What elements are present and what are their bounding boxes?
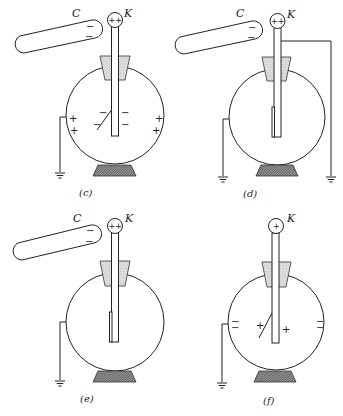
knob-label: K bbox=[286, 8, 296, 21]
charged-rod-c: C − − bbox=[15, 7, 103, 53]
ground-icon bbox=[55, 173, 65, 178]
electroscope-figure: C − − ++ K − − − − + + + + (c) bbox=[0, 0, 343, 416]
electroscope-f: + K + + − − − − bbox=[228, 212, 324, 382]
rod-charge: − bbox=[85, 31, 93, 42]
ground-icon bbox=[217, 383, 227, 388]
caption-d: (d) bbox=[243, 188, 257, 199]
globe-charge: + bbox=[152, 125, 160, 136]
panel-e: C − − ++ K (e) bbox=[13, 212, 164, 404]
panel-f: + K + + − − − − (f) bbox=[217, 212, 324, 406]
charged-rod-d: C − − bbox=[175, 7, 263, 54]
ground-icon bbox=[218, 177, 228, 182]
ground-wire-c bbox=[55, 117, 66, 178]
globe-charge: − bbox=[231, 322, 239, 333]
caption-f: (f) bbox=[263, 395, 275, 406]
globe-charge: + bbox=[69, 113, 77, 124]
base bbox=[256, 165, 298, 176]
knob-charge: ++ bbox=[109, 222, 122, 231]
rod-label: C bbox=[73, 212, 82, 225]
ground-wire-e bbox=[55, 322, 66, 386]
knob-label: K bbox=[124, 212, 134, 225]
ground-icon bbox=[55, 381, 65, 386]
rod-charge: − bbox=[86, 225, 94, 236]
rod-charge: − bbox=[247, 32, 255, 43]
globe-charge: + bbox=[155, 113, 163, 124]
rod-inner-charge: − bbox=[121, 119, 129, 130]
base bbox=[254, 371, 296, 382]
panel-c: C − − ++ K − − − − + + + + (c) bbox=[15, 7, 164, 198]
rod-label: C bbox=[236, 7, 245, 20]
globe-charge: + bbox=[70, 125, 78, 136]
gold-leaf bbox=[272, 107, 275, 137]
base bbox=[93, 165, 136, 176]
ground-icon bbox=[326, 177, 336, 182]
metal-rod bbox=[274, 27, 281, 137]
caption-c: (c) bbox=[79, 187, 93, 198]
electroscope-c: ++ K − − − − + + + + bbox=[66, 7, 164, 176]
caption-e: (e) bbox=[80, 393, 94, 404]
globe-charge: − bbox=[316, 322, 324, 333]
metal-rod bbox=[112, 232, 119, 342]
knob-label: K bbox=[286, 212, 296, 225]
leaf-charge: − bbox=[99, 107, 107, 118]
electroscope-d: ++ K bbox=[229, 8, 325, 176]
panel-d: C − − ++ K (d) bbox=[175, 7, 336, 199]
electroscope-e: ++ K bbox=[66, 212, 164, 382]
rod-label: C bbox=[72, 7, 81, 20]
base bbox=[93, 371, 136, 382]
leaf-charge: + bbox=[256, 320, 264, 331]
leaf-charge: − bbox=[93, 119, 101, 130]
rod-inner-charge: + bbox=[282, 324, 290, 335]
charged-rod-e: C − − bbox=[13, 212, 101, 260]
metal-rod bbox=[112, 26, 119, 136]
rod-charge: − bbox=[85, 236, 93, 247]
gold-leaf bbox=[110, 312, 113, 342]
knob-charge: ++ bbox=[271, 17, 284, 26]
ground-wire-globe-d bbox=[218, 119, 229, 182]
metal-rod bbox=[272, 233, 279, 343]
knob-charge: ++ bbox=[109, 16, 122, 25]
knob-label: K bbox=[123, 7, 133, 20]
rod-inner-charge: − bbox=[121, 107, 129, 118]
ground-wire-f bbox=[217, 324, 228, 388]
knob-charge: + bbox=[273, 222, 280, 231]
